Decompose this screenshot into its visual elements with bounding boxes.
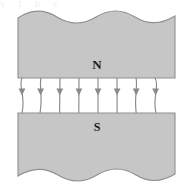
field-line (95, 78, 102, 113)
field-line (37, 78, 44, 113)
north-pole-block: N (18, 11, 175, 78)
field-line (76, 78, 83, 113)
field-line (152, 78, 159, 113)
field-line (19, 78, 26, 113)
south-pole-block: S (18, 113, 175, 181)
field-line (56, 78, 63, 113)
south-pole-label: S (94, 120, 101, 134)
magnet-field-figure: y f p c N (0, 0, 188, 193)
north-pole-label: N (92, 57, 102, 72)
magnetic-field-lines (19, 78, 159, 113)
field-line (114, 78, 121, 113)
magnet-field-diagram-svg: N (0, 0, 188, 193)
field-line (133, 78, 140, 113)
